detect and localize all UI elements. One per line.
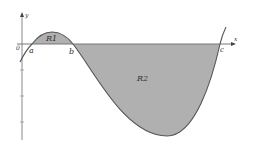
region-r1-label: R1: [45, 34, 57, 43]
point-a-label: a: [29, 46, 34, 55]
y-axis-label: y: [24, 11, 29, 19]
x-axis-arrow-icon: [231, 42, 236, 46]
point-c-label: c: [220, 46, 224, 54]
point-b-label: b: [69, 47, 74, 56]
function-graph: y x 0 a b c R1 R2: [0, 0, 254, 144]
x-axis-label: x: [234, 35, 238, 42]
origin-label: 0: [16, 44, 20, 51]
region-r2-label: R2: [136, 74, 148, 83]
y-axis-arrow-icon: [20, 12, 24, 17]
region-r2: [73, 44, 220, 136]
